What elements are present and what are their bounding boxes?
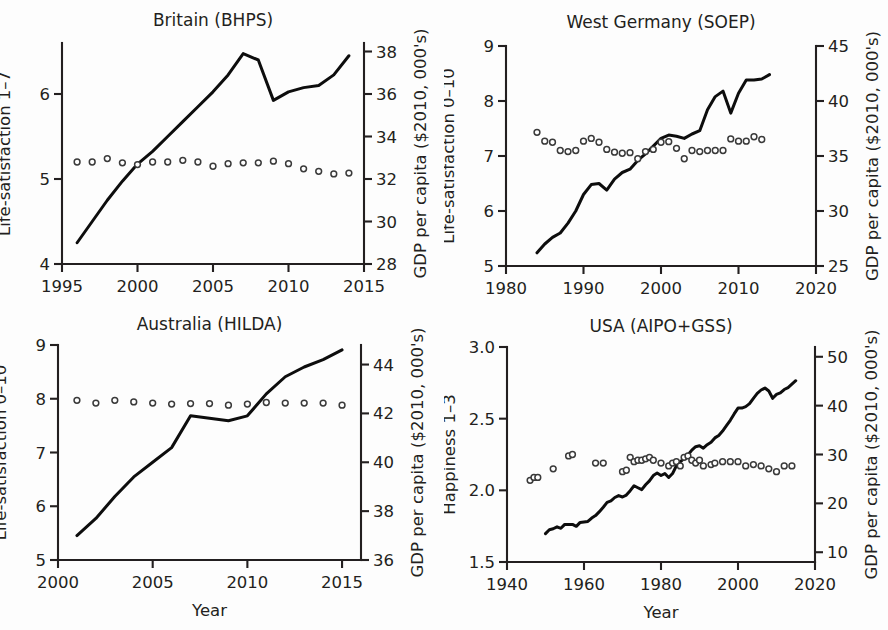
x-tick-label: 2010	[268, 277, 310, 296]
right-tick-label: 36	[376, 85, 397, 104]
wellbeing-data-point	[339, 402, 345, 408]
wellbeing-data-point	[535, 475, 541, 481]
wellbeing-data-point	[728, 136, 734, 142]
right-tick-label: 38	[373, 502, 394, 521]
wellbeing-data-point	[712, 148, 718, 154]
x-tick-label: 1960	[563, 575, 605, 594]
y-axis-label: Life-satisfaction 0–10	[0, 365, 10, 541]
right-tick-label: 34	[376, 128, 397, 147]
x-tick-label: 1940	[486, 575, 528, 594]
x-tick-label: 2000	[640, 279, 682, 298]
left-tick-label: 7	[36, 444, 47, 463]
wellbeing-data-point	[623, 467, 629, 473]
wellbeing-data-point	[781, 463, 787, 469]
x-tick-label: 2005	[132, 573, 174, 592]
wellbeing-data-point	[619, 150, 625, 156]
y-axis-label: Life-satisfaction 1–7	[0, 71, 14, 236]
wellbeing-data-point	[720, 459, 726, 465]
wellbeing-data-point	[666, 139, 672, 145]
right-tick-label: 38	[376, 43, 397, 62]
x-tick-label: 2020	[794, 575, 836, 594]
left-tick-label: 9	[484, 37, 495, 56]
wellbeing-data-point	[774, 469, 780, 475]
wellbeing-data-point	[271, 158, 277, 164]
left-tick-label: 4	[40, 255, 51, 274]
chart-panel-australia: Australia (HILDA)56789363840424420002005…	[0, 315, 444, 630]
right-tick-label: 35	[828, 147, 849, 166]
y2-axis-label: GDP per capita ($2010, 000's)	[862, 330, 881, 580]
wellbeing-data-point	[677, 463, 683, 469]
x-tick-label: 1995	[41, 277, 83, 296]
wellbeing-data-point	[557, 148, 563, 154]
wellbeing-data-point	[346, 170, 352, 176]
wellbeing-data-point	[712, 460, 718, 466]
x-tick-label: 2005	[192, 277, 234, 296]
y2-axis-label: GDP per capita ($2010, 000's)	[408, 328, 427, 578]
chart-panel-west-germany: West Germany (SOEP)567892530354045198019…	[444, 0, 888, 315]
right-tick-label: 25	[828, 257, 849, 276]
wellbeing-data-point	[689, 148, 695, 154]
panel-title: USA (AIPO+GSS)	[589, 316, 732, 336]
gdp-line-series	[546, 381, 796, 534]
left-tick-label: 5	[36, 551, 47, 570]
x-tick-label: 2000	[717, 575, 759, 594]
gdp-line-series	[77, 54, 349, 243]
wellbeing-data-point	[604, 147, 610, 153]
chart-panel-britain: Britain (BHPS)45628303234363819952000200…	[0, 0, 444, 315]
wellbeing-data-point	[550, 139, 556, 145]
wellbeing-data-point	[743, 463, 749, 469]
wellbeing-data-point	[789, 463, 795, 469]
wellbeing-data-point	[210, 163, 216, 169]
wellbeing-data-point	[320, 400, 326, 406]
left-tick-label: 7	[484, 147, 495, 166]
wellbeing-data-point	[263, 400, 269, 406]
x-axis-label: Year	[643, 603, 679, 622]
wellbeing-data-point	[301, 400, 307, 406]
x-tick-label: 1990	[563, 279, 605, 298]
wellbeing-data-point	[150, 159, 156, 165]
wellbeing-data-point	[135, 162, 141, 168]
left-tick-label: 6	[40, 85, 51, 104]
left-tick-label: 9	[36, 336, 47, 355]
left-tick-label: 2.0	[469, 481, 495, 500]
right-tick-label: 20	[827, 494, 848, 513]
x-tick-label: 1980	[485, 279, 527, 298]
gdp-line-series	[537, 75, 770, 253]
chart-panel-usa: USA (AIPO+GSS)1.52.02.53.010203040501940…	[444, 315, 888, 630]
left-tick-label: 5	[40, 170, 51, 189]
left-tick-label: 8	[36, 390, 47, 409]
wellbeing-data-point	[705, 148, 711, 154]
x-tick-label: 2010	[718, 279, 760, 298]
figure-panel-grid: Britain (BHPS)45628303234363819952000200…	[0, 0, 888, 630]
wellbeing-data-point	[650, 147, 656, 153]
wellbeing-data-point	[600, 460, 606, 466]
right-tick-label: 30	[376, 213, 397, 232]
x-tick-label: 2010	[226, 573, 268, 592]
wellbeing-data-point	[244, 401, 250, 407]
wellbeing-data-point	[195, 159, 201, 165]
wellbeing-data-point	[674, 145, 680, 151]
wellbeing-data-point	[700, 463, 706, 469]
wellbeing-data-point	[74, 159, 80, 165]
wellbeing-data-point	[751, 134, 757, 140]
wellbeing-data-point	[612, 149, 618, 155]
wellbeing-data-point	[650, 457, 656, 463]
wellbeing-data-point	[766, 466, 772, 472]
wellbeing-data-point	[316, 168, 322, 174]
x-tick-label: 2000	[117, 277, 159, 296]
panel-title: Australia (HILDA)	[137, 315, 283, 334]
wellbeing-data-point	[286, 161, 292, 167]
left-tick-label: 6	[484, 202, 495, 221]
left-tick-label: 3.0	[469, 338, 495, 357]
wellbeing-data-point	[627, 150, 633, 156]
wellbeing-data-point	[226, 402, 232, 408]
right-tick-label: 45	[828, 37, 849, 56]
right-tick-label: 40	[373, 453, 394, 472]
wellbeing-data-point	[282, 400, 288, 406]
wellbeing-data-point	[150, 400, 156, 406]
wellbeing-data-point	[643, 149, 649, 155]
wellbeing-data-point	[131, 399, 137, 405]
panel-title: Britain (BHPS)	[153, 10, 273, 30]
wellbeing-data-point	[301, 166, 307, 172]
right-tick-label: 50	[827, 348, 848, 367]
